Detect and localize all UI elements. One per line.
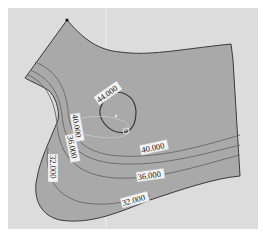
svg-text:32.000: 32.000 [48, 155, 58, 178]
surface-patch [25, 20, 240, 221]
contour-diagram: 44.000 40.000 36.000 32.000 40.000 36.00… [0, 0, 263, 237]
control-point[interactable] [65, 18, 68, 21]
center-point-marker [115, 115, 118, 118]
label-32-left: 32.000 [48, 154, 58, 182]
